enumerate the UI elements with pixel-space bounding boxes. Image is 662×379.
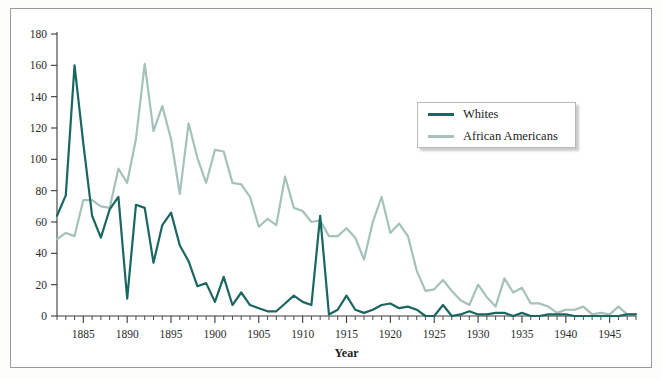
legend-swatch-african-americans	[428, 135, 454, 138]
legend-entry-african-americans: African Americans	[418, 125, 575, 147]
y-tick-label: 60	[36, 216, 48, 228]
legend-label-whites: Whites	[463, 107, 498, 122]
y-tick-label: 0	[41, 310, 47, 322]
legend-swatch-whites	[428, 113, 454, 116]
x-tick-label: 1905	[247, 328, 270, 340]
y-tick-label: 20	[36, 279, 48, 291]
x-tick-label: 1915	[335, 328, 358, 340]
x-tick-label: 1895	[160, 328, 183, 340]
legend-entry-whites: Whites	[418, 103, 575, 125]
x-tick-label: 1930	[467, 328, 490, 340]
y-tick-label: 40	[36, 247, 48, 259]
x-tick-label: 1945	[598, 328, 621, 340]
x-tick-label: 1940	[554, 328, 577, 340]
y-tick-label: 180	[30, 28, 48, 40]
legend-label-african-americans: African Americans	[463, 129, 558, 144]
chart-legend: Whites African Americans	[417, 102, 576, 148]
x-tick-label: 1910	[291, 328, 314, 340]
y-tick-label: 80	[36, 185, 48, 197]
x-tick-label: 1925	[423, 328, 446, 340]
x-tick-label: 1935	[510, 328, 533, 340]
line-chart: 0204060801001201401601801885189018951900…	[0, 0, 662, 379]
y-tick-label: 140	[30, 91, 48, 103]
chart-figure: 0204060801001201401601801885189018951900…	[0, 0, 662, 379]
x-axis-title: Year	[335, 346, 360, 360]
x-tick-label: 1900	[203, 328, 226, 340]
x-tick-label: 1920	[379, 328, 402, 340]
y-tick-label: 100	[30, 153, 48, 165]
x-tick-label: 1890	[116, 328, 139, 340]
y-tick-label: 120	[30, 122, 48, 134]
y-tick-label: 160	[30, 59, 48, 71]
x-tick-label: 1885	[72, 328, 95, 340]
